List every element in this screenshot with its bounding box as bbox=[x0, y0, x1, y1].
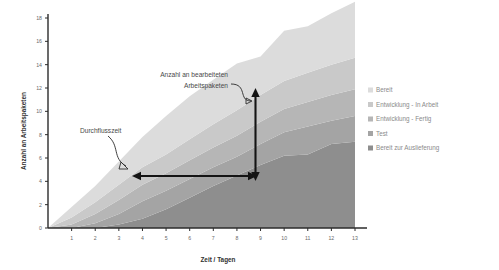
legend-swatch bbox=[368, 117, 373, 122]
x-axis-tick-label: 6 bbox=[188, 235, 191, 241]
wip-annotation-line1: Anzahl an bearbeiteten bbox=[160, 71, 228, 78]
lead-time-annotation-line1: Durchflusszeit bbox=[80, 127, 122, 134]
x-axis-tick-label: 2 bbox=[94, 235, 97, 241]
legend-swatch bbox=[368, 102, 373, 107]
legend-label: Entwicklung - Fertig bbox=[376, 115, 432, 123]
y-axis-title: Anzahl an Arbeitspaketen bbox=[20, 92, 28, 170]
legend-label: Bereit zur Auslieferung bbox=[376, 144, 440, 152]
x-axis-tick-label: 5 bbox=[165, 235, 168, 241]
legend-label: Bereit bbox=[376, 86, 393, 93]
y-axis-tick-labels: 024681012141618 bbox=[36, 15, 42, 231]
y-axis-tick-label: 0 bbox=[39, 225, 42, 231]
x-axis-tick-label: 13 bbox=[352, 235, 358, 241]
legend: BereitEntwicklung - In ArbeitEntwicklung… bbox=[368, 86, 440, 152]
legend-swatch bbox=[368, 88, 373, 93]
legend-label: Test bbox=[376, 130, 388, 137]
chart-svg: 024681012141618 12345678910111213 Anzahl… bbox=[0, 0, 499, 270]
x-axis-title: Zeit / Tagen bbox=[200, 256, 235, 264]
y-axis-tick-label: 8 bbox=[39, 132, 42, 138]
stacked-area-bands bbox=[48, 2, 355, 228]
wip-annotation-line2: Arbeitspaketen bbox=[184, 82, 228, 90]
x-axis-tick-label: 11 bbox=[305, 235, 310, 241]
legend-swatch bbox=[368, 131, 373, 136]
y-axis-tick-label: 4 bbox=[39, 178, 42, 184]
x-axis-tick-label: 1 bbox=[70, 235, 73, 241]
y-axis-tick-label: 6 bbox=[39, 155, 42, 161]
x-axis-tick-label: 9 bbox=[259, 235, 262, 241]
y-axis-tick-label: 12 bbox=[36, 85, 42, 91]
x-axis-tick-label: 7 bbox=[212, 235, 215, 241]
legend-label: Entwicklung - In Arbeit bbox=[376, 101, 439, 109]
x-axis-tick-labels: 12345678910111213 bbox=[70, 235, 358, 241]
y-axis-tick-label: 10 bbox=[36, 108, 42, 114]
x-axis-tick-label: 3 bbox=[117, 235, 120, 241]
cumulative-flow-diagram: 024681012141618 12345678910111213 Anzahl… bbox=[0, 0, 499, 270]
y-axis-tick-label: 18 bbox=[36, 15, 42, 21]
y-axis-tick-label: 2 bbox=[39, 202, 42, 208]
x-axis-tick-label: 4 bbox=[141, 235, 144, 241]
x-axis-tick-label: 8 bbox=[235, 235, 238, 241]
legend-swatch bbox=[368, 146, 373, 151]
y-axis-tick-label: 16 bbox=[36, 38, 42, 44]
y-axis-tick-label: 14 bbox=[36, 62, 42, 68]
x-axis-tick-label: 10 bbox=[281, 235, 287, 241]
x-axis-tick-label: 12 bbox=[328, 235, 334, 241]
